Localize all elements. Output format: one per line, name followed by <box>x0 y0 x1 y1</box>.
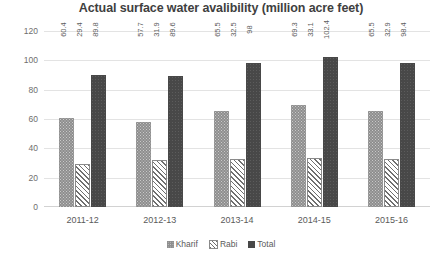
x-axis-label: 2015-16 <box>353 211 430 229</box>
legend-item-kharif[interactable]: Kharif <box>167 240 198 249</box>
bar-rabi-2011-12[interactable]: 29.4 <box>75 31 90 207</box>
x-axis: 2011-122012-132013-142014-152015-16 <box>44 211 430 229</box>
bar-group: 60.429.489.8 <box>44 31 121 207</box>
y-tick-40: 40 <box>0 143 38 153</box>
legend-label: Rabi <box>220 240 237 249</box>
bar-rect: 69.3 <box>291 105 306 207</box>
x-axis-label: 2012-13 <box>121 211 198 229</box>
bar-total-2013-14[interactable]: 98 <box>246 31 261 207</box>
bar-group: 57.731.989.6 <box>121 31 198 207</box>
bar-rabi-2014-15[interactable]: 33.1 <box>307 31 322 207</box>
y-tick-60: 60 <box>0 114 38 124</box>
bar-rect: 57.7 <box>136 122 151 207</box>
legend-swatch-icon <box>209 240 218 249</box>
bar-rabi-2012-13[interactable]: 31.9 <box>152 31 167 207</box>
bar-value-label: 98 <box>246 25 254 33</box>
bar-rabi-2015-16[interactable]: 32.9 <box>384 31 399 207</box>
x-axis-label: 2011-12 <box>44 211 121 229</box>
y-axis: 120 100 80 60 40 20 0 <box>0 31 38 207</box>
y-tick-0: 0 <box>0 202 38 212</box>
legend-item-rabi[interactable]: Rabi <box>209 240 237 249</box>
bar-value-label: 69.3 <box>291 22 299 37</box>
bar-value-label: 65.5 <box>368 22 376 37</box>
legend-swatch-icon <box>248 241 255 248</box>
bar-total-2012-13[interactable]: 89.6 <box>168 31 183 207</box>
chart-title: Actual surface water avalibility (millio… <box>0 1 442 15</box>
bar-value-label: 31.9 <box>152 22 160 37</box>
legend-swatch-icon <box>167 241 174 248</box>
legend-label: Kharif <box>176 240 198 249</box>
bar-value-label: 29.4 <box>75 22 83 37</box>
bar-kharif-2014-15[interactable]: 69.3 <box>291 31 306 207</box>
y-tick-80: 80 <box>0 85 38 95</box>
chart-container: Actual surface water avalibility (millio… <box>0 0 442 264</box>
bar-rect: 98 <box>246 63 261 207</box>
bar-rect: 89.8 <box>91 75 106 207</box>
bar-rect: 60.4 <box>59 118 74 207</box>
bar-rect: 33.1 <box>307 158 322 207</box>
bar-total-2015-16[interactable]: 98.4 <box>400 31 415 207</box>
bar-rect: 31.9 <box>152 160 167 207</box>
bar-rect: 32.5 <box>230 159 245 207</box>
bar-kharif-2012-13[interactable]: 57.7 <box>136 31 151 207</box>
bar-kharif-2011-12[interactable]: 60.4 <box>59 31 74 207</box>
bar-rect: 102.4 <box>323 57 338 207</box>
bar-rect: 29.4 <box>75 164 90 207</box>
bar-value-label: 89.8 <box>91 22 99 37</box>
bar-rect: 98.4 <box>400 63 415 207</box>
bar-value-label: 89.6 <box>168 22 176 37</box>
bar-rect: 65.5 <box>368 111 383 207</box>
bar-value-label: 32.9 <box>384 22 392 37</box>
x-axis-label: 2014-15 <box>276 211 353 229</box>
bar-kharif-2015-16[interactable]: 65.5 <box>368 31 383 207</box>
y-tick-120: 120 <box>0 26 38 36</box>
bar-group: 65.532.998.4 <box>353 31 430 207</box>
legend-item-total[interactable]: Total <box>248 240 275 249</box>
bar-value-label: 57.7 <box>136 22 144 37</box>
bar-value-label: 98.4 <box>400 22 408 37</box>
chart-legend: KharifRabiTotal <box>0 240 442 249</box>
bar-group: 69.333.1102.4 <box>276 31 353 207</box>
x-axis-label: 2013-14 <box>198 211 275 229</box>
bar-total-2014-15[interactable]: 102.4 <box>323 31 338 207</box>
y-tick-100: 100 <box>0 55 38 65</box>
bar-groups: 60.429.489.857.731.989.665.532.59869.333… <box>44 31 430 207</box>
bar-total-2011-12[interactable]: 89.8 <box>91 31 106 207</box>
legend-label: Total <box>257 240 275 249</box>
bar-rect: 32.9 <box>384 159 399 207</box>
bar-rect: 65.5 <box>214 111 229 207</box>
bar-rect: 89.6 <box>168 76 183 207</box>
bar-value-label: 32.5 <box>230 22 238 37</box>
bar-rabi-2013-14[interactable]: 32.5 <box>230 31 245 207</box>
bar-group: 65.532.598 <box>198 31 275 207</box>
bar-value-label: 65.5 <box>214 22 222 37</box>
y-tick-20: 20 <box>0 173 38 183</box>
bar-kharif-2013-14[interactable]: 65.5 <box>214 31 229 207</box>
bar-value-label: 102.4 <box>323 20 331 39</box>
bar-value-label: 60.4 <box>59 22 67 37</box>
bar-value-label: 33.1 <box>307 22 315 37</box>
